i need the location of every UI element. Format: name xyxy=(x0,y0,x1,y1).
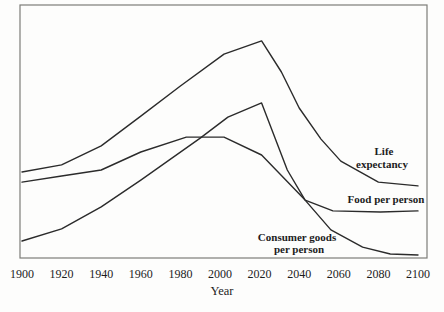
x-tick-label-2020: 2020 xyxy=(248,267,272,281)
life-expectancy-label-line-2: expectancy xyxy=(356,158,408,170)
x-tick-label-2100: 2100 xyxy=(406,267,430,281)
x-tick-label-1980: 1980 xyxy=(168,267,192,281)
plot-border-box xyxy=(20,5,427,258)
x-tick-label-2080: 2080 xyxy=(366,267,390,281)
life-expectancy-label-line-1: Life xyxy=(375,145,394,157)
x-tick-label-1960: 1960 xyxy=(129,267,153,281)
x-tick-label-1940: 1940 xyxy=(89,267,113,281)
x-tick-label-2040: 2040 xyxy=(287,267,311,281)
x-axis-title: Year xyxy=(210,284,234,298)
consumer-goods-per-person-line xyxy=(22,103,418,255)
consumer-goods-per-person-label-line-2: per person xyxy=(274,243,324,255)
chart-svg: 1900192019401960198020002020204020602080… xyxy=(0,0,444,312)
x-tick-label-1920: 1920 xyxy=(50,267,74,281)
x-tick-label-1900: 1900 xyxy=(10,267,34,281)
x-tick-label-2060: 2060 xyxy=(327,267,351,281)
consumer-goods-per-person-label-line-1: Consumer goods xyxy=(258,231,337,243)
food-per-person-label-line-1: Food per person xyxy=(348,193,425,205)
limits-to-growth-figure: 1900192019401960198020002020204020602080… xyxy=(0,0,444,312)
x-tick-label-2000: 2000 xyxy=(208,267,232,281)
